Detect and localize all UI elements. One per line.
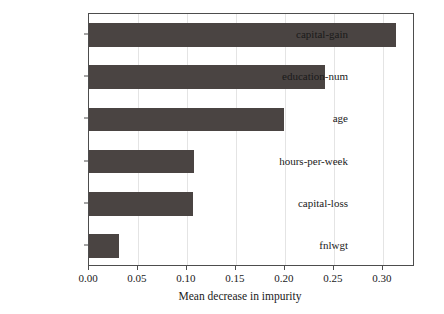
x-tick-mark [88, 266, 89, 270]
x-tick-label: 0.10 [176, 273, 195, 284]
y-tick-label: age [333, 113, 348, 124]
x-tick-label: 0.20 [274, 273, 293, 284]
x-axis-label-text: Mean decrease in impurity [179, 290, 302, 302]
x-tick-label: 0.30 [372, 273, 391, 284]
y-tick-mark [84, 202, 88, 203]
x-tick-mark [137, 266, 138, 270]
bar [89, 192, 193, 216]
y-tick-label: capital-gain [296, 29, 348, 40]
bar [89, 108, 284, 132]
y-tick-mark [84, 160, 88, 161]
x-tick-mark [333, 266, 334, 270]
bar [89, 150, 194, 174]
y-tick-mark [84, 34, 88, 35]
bar-row [89, 65, 413, 89]
bar-row [89, 150, 413, 174]
bar-row [89, 192, 413, 216]
bar [89, 234, 119, 258]
x-tick-mark [235, 266, 236, 270]
x-tick-mark [186, 266, 187, 270]
y-tick-mark [84, 76, 88, 77]
x-tick-mark [284, 266, 285, 270]
x-tick-mark [382, 266, 383, 270]
y-tick-label: education-num [282, 71, 348, 82]
bar-series [89, 14, 413, 265]
figure: capital-gaineducation-numagehours-per-we… [0, 0, 444, 314]
y-tick-mark [84, 118, 88, 119]
bar-row [89, 234, 413, 258]
y-tick-label: capital-loss [298, 197, 348, 208]
x-tick-label: 0.00 [78, 273, 97, 284]
y-tick-label: hours-per-week [279, 155, 348, 166]
bar [89, 23, 396, 47]
x-tick-label: 0.15 [225, 273, 244, 284]
bar-row [89, 108, 413, 132]
plot-area [88, 13, 414, 266]
x-axis-label: Mean decrease in impurity [0, 290, 444, 302]
bar-row [89, 23, 413, 47]
y-tick-mark [84, 244, 88, 245]
x-tick-label: 0.05 [127, 273, 146, 284]
x-tick-label: 0.25 [323, 273, 342, 284]
y-tick-label: fnlwgt [319, 239, 348, 250]
